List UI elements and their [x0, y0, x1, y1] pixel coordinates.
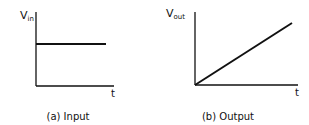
- input-plot: [36, 12, 114, 86]
- output-x-label: t: [295, 88, 299, 98]
- input-y-label: Vin: [20, 10, 34, 23]
- output-caption: (b) Output: [202, 112, 254, 122]
- input-caption: (a) Input: [46, 112, 89, 122]
- output-y-label: Vout: [166, 8, 185, 21]
- output-plot: [195, 12, 298, 85]
- diagram-canvas: [0, 0, 309, 125]
- output-ramp-signal: [195, 23, 292, 85]
- input-x-label: t: [111, 89, 115, 99]
